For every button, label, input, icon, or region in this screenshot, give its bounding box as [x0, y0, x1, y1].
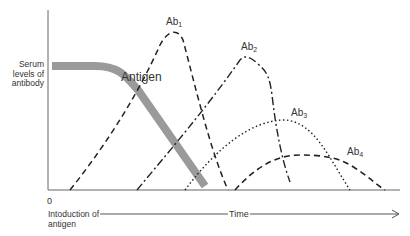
x-axis-start-label: Intoduction of antigen	[48, 209, 100, 229]
ab1-label: Ab1	[166, 17, 182, 30]
ab4-curve	[235, 155, 385, 190]
ab2-label: Ab2	[241, 42, 257, 55]
x-axis-label: Time	[228, 209, 250, 219]
antigen-curve	[52, 66, 205, 186]
ab3-label: Ab3	[291, 108, 307, 121]
y-axis-label: Serum levels of antibody	[2, 60, 44, 89]
antigen-label: Antigen	[121, 72, 162, 82]
ab3-curve	[185, 120, 350, 190]
antibody-response-diagram	[0, 0, 410, 236]
origin-label: 0	[47, 196, 52, 206]
ab4-label: Ab4	[347, 147, 363, 160]
